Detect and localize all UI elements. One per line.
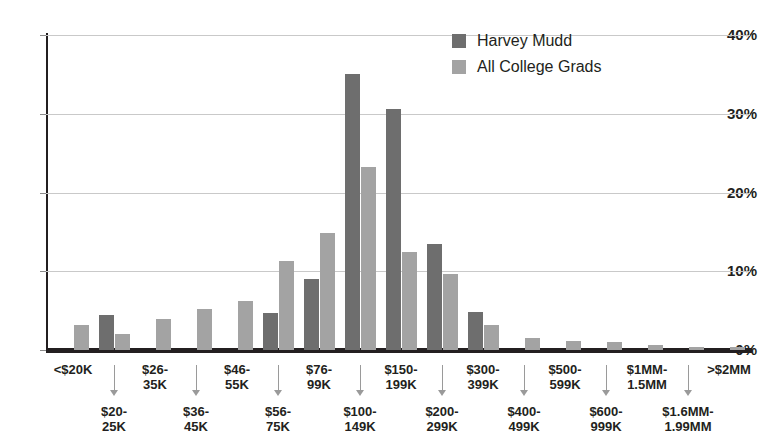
bar <box>566 341 581 350</box>
bar <box>689 347 704 350</box>
bar <box>279 261 294 350</box>
bar <box>443 274 458 350</box>
x-axis-label: $20-25K <box>82 404 146 434</box>
bar <box>468 312 483 350</box>
legend-item-harvey-mudd: Harvey Mudd <box>452 28 602 54</box>
x-axis-label: $100-149K <box>328 404 392 434</box>
bar <box>345 74 360 350</box>
bar <box>99 315 114 350</box>
bar <box>730 347 745 350</box>
bar <box>238 301 253 350</box>
gridline-40 <box>46 35 750 36</box>
x-axis-label: >$2MM <box>697 362 761 377</box>
bar <box>386 109 401 350</box>
x-axis-label: $150-199K <box>369 362 433 392</box>
bar <box>402 252 417 350</box>
bar <box>263 313 278 350</box>
legend-label-all-college-grads: All College Grads <box>477 59 602 75</box>
bar <box>197 309 212 350</box>
bar <box>648 345 663 350</box>
x-axis-label: $200-299K <box>410 404 474 434</box>
bar <box>74 325 89 350</box>
chart-legend: Harvey Mudd All College Grads <box>452 28 602 80</box>
plot-area <box>46 35 750 350</box>
x-axis-label: $56-75K <box>246 404 310 434</box>
legend-label-harvey-mudd: Harvey Mudd <box>477 33 572 49</box>
legend-swatch-icon-harvey-mudd <box>452 34 466 48</box>
bar <box>361 167 376 350</box>
bar <box>427 244 442 350</box>
x-axis-label: $300-399K <box>451 362 515 392</box>
legend-swatch-icon-all-college-grads <box>452 60 466 74</box>
x-axis-label: $500-599K <box>533 362 597 392</box>
x-axis-label: $1MM-1.5MM <box>615 362 679 392</box>
x-axis-label: $36-45K <box>164 404 228 434</box>
bar <box>525 338 540 350</box>
x-axis-label: $76-99K <box>287 362 351 392</box>
bar <box>156 319 171 350</box>
x-axis-label: $1.6MM-1.99MM <box>656 404 720 434</box>
legend-item-all-college-grads: All College Grads <box>452 54 602 80</box>
bar <box>484 325 499 350</box>
x-axis-label: $600-999K <box>574 404 638 434</box>
bar <box>607 342 622 350</box>
x-axis-label: $26-35K <box>123 362 187 392</box>
x-axis-category-labels: <$20K$20-25K$26-35K$36-45K$46-55K$56-75K… <box>46 357 752 446</box>
x-axis-label: $46-55K <box>205 362 269 392</box>
bar <box>304 279 319 350</box>
bar <box>320 233 335 350</box>
x-axis-label: $400-499K <box>492 404 556 434</box>
x-axis-label: <$20K <box>41 362 105 377</box>
bar <box>115 334 130 350</box>
